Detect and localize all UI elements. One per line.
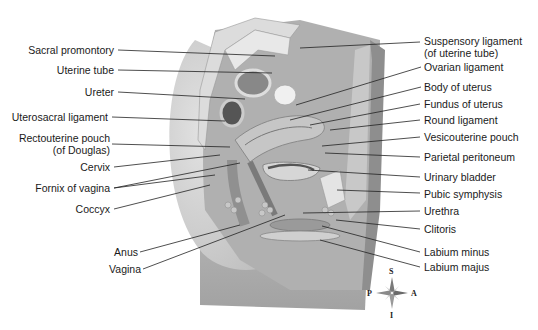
label-sacral-promontory: Sacral promontory [28,44,114,56]
label-suspensory-ligament-sub: (of uterine tube) [424,47,498,59]
compass-inferior: I [390,311,393,320]
label-clitoris: Clitoris [424,223,456,235]
label-rectouterine-pouch: Rectouterine pouch [19,132,110,144]
labium-majus [260,231,340,241]
label-fornix-of-vagina: Fornix of vagina [35,182,110,194]
label-ovarian-ligament: Ovarian ligament [424,61,503,73]
label-pubic-symphysis: Pubic symphysis [424,188,502,200]
ovary [274,85,296,105]
label-cervix: Cervix [80,161,110,173]
label-rectouterine-pouch-sub: (of Douglas) [53,144,110,156]
label-ureter: Ureter [85,86,114,98]
compass-rose-icon [376,277,408,309]
rectum-loop [221,100,243,126]
label-urethra: Urethra [424,205,459,217]
label-fundus-of-uterus: Fundus of uterus [424,98,503,110]
labium-minus [270,219,330,231]
label-suspensory-ligament: Suspensory ligament [424,35,522,47]
compass-anterior: A [411,289,417,298]
label-vagina: Vagina [109,263,141,275]
compass-posterior: P [367,289,372,298]
label-coccyx: Coccyx [76,203,110,215]
label-round-ligament: Round ligament [424,114,498,126]
label-anus: Anus [114,246,138,258]
label-uterosacral-ligament: Uterosacral ligament [12,111,108,123]
label-body-of-uterus: Body of uterus [424,81,492,93]
label-uterine-tube: Uterine tube [57,64,114,76]
label-labium-majus: Labium majus [424,261,489,273]
intestine-loop [236,70,270,96]
label-urinary-bladder: Urinary bladder [424,171,496,183]
label-labium-minus: Labium minus [424,246,489,258]
diagram-canvas: Sacral promontory Uterine tube Ureter Ut… [0,0,538,330]
label-vesicouterine-pouch: Vesicouterine pouch [424,131,519,143]
label-parietal-peritoneum: Parietal peritoneum [424,151,515,163]
compass-superior: S [389,267,393,276]
